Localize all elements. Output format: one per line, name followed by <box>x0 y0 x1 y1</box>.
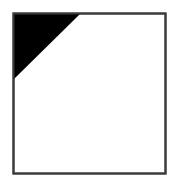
corner-triangle-diagram <box>0 0 177 188</box>
figure-canvas <box>0 0 177 188</box>
